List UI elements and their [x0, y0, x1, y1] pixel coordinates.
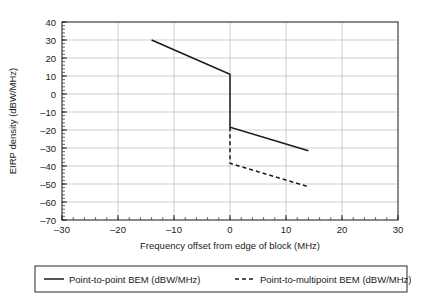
y-axis-tick-label: –70	[40, 215, 56, 226]
y-axis-tick-label: 30	[45, 35, 56, 46]
x-axis-tick-label: 30	[393, 224, 404, 235]
y-axis-tick-label: –20	[40, 125, 56, 136]
y-axis-tick-label: 20	[45, 53, 56, 64]
x-axis-tick-label: –20	[110, 224, 126, 235]
legend-label-point-to-multipoint: Point-to-multipoint BEM (dBW/MHz)	[260, 274, 412, 285]
y-axis-tick-label: 0	[51, 89, 56, 100]
x-axis-tick-label: –10	[166, 224, 182, 235]
y-axis-title: EIRP density (dBW/MHz)	[7, 68, 18, 174]
x-axis-tick-label: 20	[337, 224, 348, 235]
series-line-2	[230, 127, 308, 186]
y-axis-tick-label: –60	[40, 197, 56, 208]
y-axis-tick-label: 40	[45, 17, 56, 28]
chart-figure: –30–20–100102030–70–60–50–40–30–20–10010…	[0, 0, 434, 300]
eirp-bem-chart: –30–20–100102030–70–60–50–40–30–20–10010…	[0, 0, 434, 300]
y-axis-tick-label: –40	[40, 161, 56, 172]
y-axis-tick-label: –50	[40, 179, 56, 190]
y-axis-tick-label: –10	[40, 107, 56, 118]
legend-label-point-to-point: Point-to-point BEM (dBW/MHz)	[69, 274, 200, 285]
x-axis-tick-label: –30	[54, 224, 70, 235]
x-axis-title: Frequency offset from edge of block (MHz…	[140, 240, 320, 251]
y-axis-tick-label: –30	[40, 143, 56, 154]
x-axis-tick-label: 10	[281, 224, 292, 235]
x-axis-tick-label: 0	[227, 224, 232, 235]
y-axis-tick-label: 10	[45, 71, 56, 82]
